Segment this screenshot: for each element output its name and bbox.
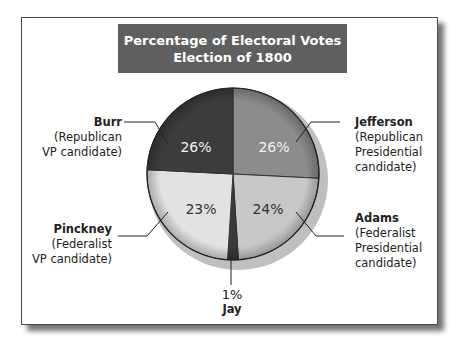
label-burr-line1: (Republican <box>42 130 122 145</box>
label-adams-line3: candidate) <box>355 256 422 271</box>
label-burr: Burr (Republican VP candidate) <box>42 115 122 160</box>
pct-burr: 26% <box>180 139 211 155</box>
label-pinckney-name: Pinckney <box>32 222 112 237</box>
label-pinckney-line1: (Federalist <box>32 237 112 252</box>
label-pinckney: Pinckney (Federalist VP candidate) <box>32 222 112 267</box>
pct-jefferson: 26% <box>258 139 289 155</box>
label-adams: Adams (Federalist Presidential candidate… <box>355 211 422 271</box>
label-jay: 1% Jay <box>210 287 254 317</box>
label-jefferson-name: Jefferson <box>355 115 423 130</box>
label-pinckney-line2: VP candidate) <box>32 252 112 267</box>
pct-pinckney: 23% <box>185 201 216 217</box>
label-jefferson-line3: candidate) <box>355 160 423 175</box>
label-jefferson-line2: Presidential <box>355 145 423 160</box>
label-jay-name: Jay <box>210 302 254 317</box>
label-adams-line2: Presidential <box>355 241 422 256</box>
label-burr-line2: VP candidate) <box>42 145 122 160</box>
pie-outline <box>147 88 319 260</box>
pct-adams: 24% <box>252 201 283 217</box>
label-jefferson: Jefferson (Republican Presidential candi… <box>355 115 423 175</box>
label-jefferson-line1: (Republican <box>355 130 423 145</box>
label-adams-line1: (Federalist <box>355 226 422 241</box>
label-burr-name: Burr <box>42 115 122 130</box>
label-jay-pct: 1% <box>210 287 254 302</box>
label-adams-name: Adams <box>355 211 422 226</box>
